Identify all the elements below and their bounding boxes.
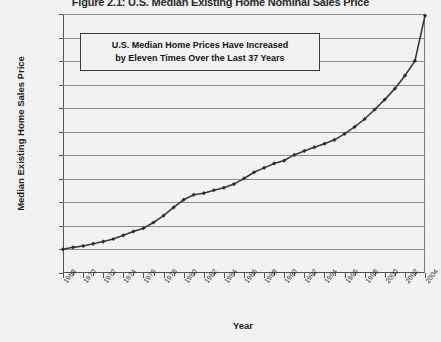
figure-title: Figure 2.1: U.S. Median Existing Home No… — [0, 0, 441, 8]
x-axis-title: Year — [60, 320, 426, 331]
y-axis-title: Median Existing Home Sales Price — [15, 18, 26, 250]
data-point-marker — [222, 186, 226, 190]
data-point-marker — [212, 188, 216, 192]
data-point-marker — [101, 239, 105, 243]
data-point-marker — [91, 242, 95, 246]
data-point-marker — [111, 237, 115, 241]
plot-area: $220,000$200,000$180,000$160,000$140,000… — [63, 14, 425, 273]
annotation-line-2: by Eleven Times Over the Last 37 Years — [115, 52, 284, 65]
data-point-marker — [71, 245, 75, 249]
data-point-marker — [322, 142, 326, 146]
data-point-marker — [121, 233, 125, 237]
data-point-marker — [312, 145, 316, 149]
x-tick-label: 2004 — [424, 268, 439, 285]
data-point-marker — [81, 244, 85, 248]
annotation-box: U.S. Median Home Prices Have Increased b… — [80, 33, 320, 71]
data-point-marker — [131, 229, 135, 233]
data-point-marker — [423, 14, 427, 18]
data-point-marker — [302, 149, 306, 153]
data-point-marker — [61, 247, 65, 251]
annotation-line-1: U.S. Median Home Prices Have Increased — [112, 39, 289, 52]
data-point-marker — [202, 191, 206, 195]
